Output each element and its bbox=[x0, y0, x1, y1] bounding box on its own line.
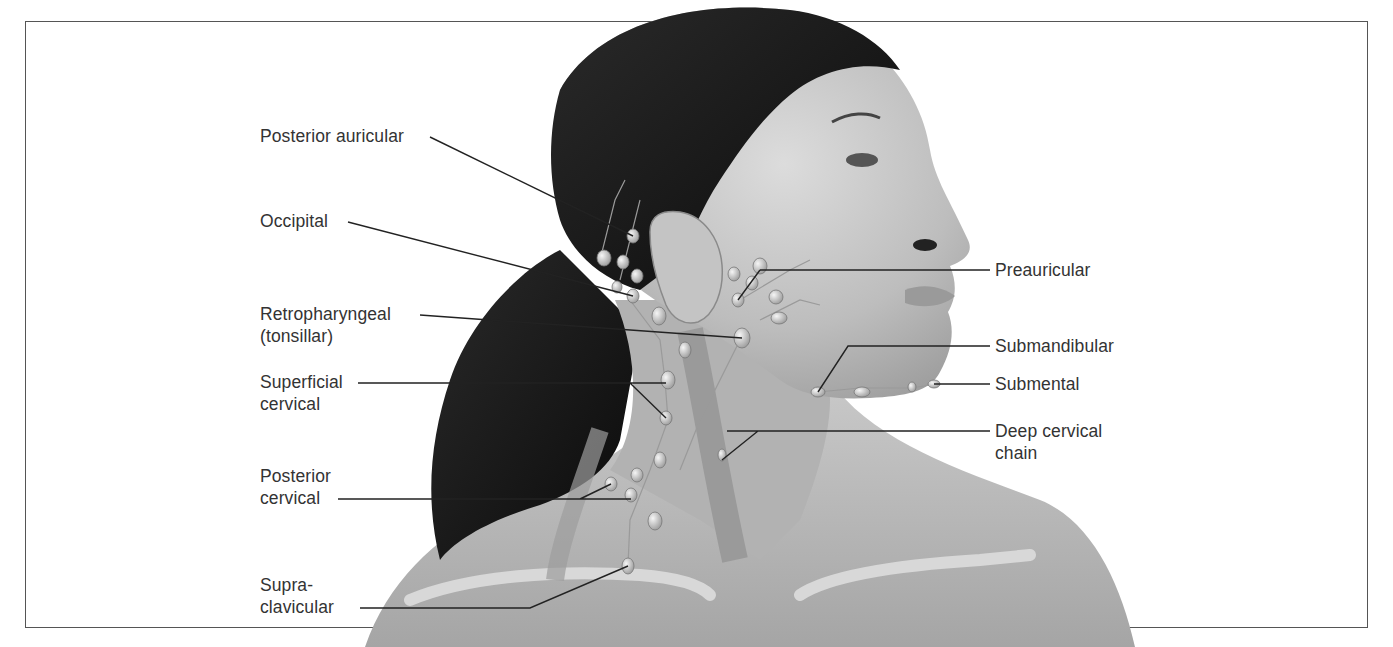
nostril bbox=[913, 239, 937, 251]
anatomical-illustration bbox=[0, 0, 1393, 647]
label-preauricular: Preauricular bbox=[995, 259, 1091, 281]
label-deep-cervical-chain: Deep cervical chain bbox=[995, 420, 1102, 464]
label-submental: Submental bbox=[995, 373, 1080, 395]
label-supraclavicular: Supra- clavicular bbox=[260, 574, 334, 618]
label-submandibular: Submandibular bbox=[995, 335, 1114, 357]
label-superficial-cervical: Superficial cervical bbox=[260, 371, 343, 415]
label-occipital: Occipital bbox=[260, 210, 328, 232]
label-posterior-cervical: Posterior cervical bbox=[260, 465, 331, 509]
label-retropharyngeal: Retropharyngeal (tonsillar) bbox=[260, 303, 391, 347]
label-posterior-auricular: Posterior auricular bbox=[260, 125, 404, 147]
eye bbox=[846, 153, 878, 167]
